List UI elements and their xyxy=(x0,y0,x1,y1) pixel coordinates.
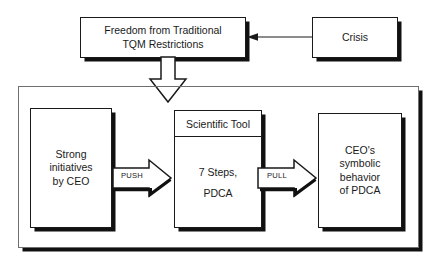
freedom-from-tqm-box[interactable]: Freedom from Traditional TQM Restriction… xyxy=(80,17,246,58)
scientific-tool-box[interactable]: Scientific Tool 7 Steps, PDCA xyxy=(174,110,262,228)
scientific-tool-header-label: Scientific Tool xyxy=(186,118,250,130)
freedom-from-tqm-label: Freedom from Traditional TQM Restriction… xyxy=(104,24,221,50)
pull-arrow: PULL xyxy=(258,158,318,198)
arrow-left-icon xyxy=(246,28,314,46)
ceo-symbolic-behavior-label: CEO's symbolic behavior of PDCA xyxy=(340,144,381,197)
push-arrow: PUSH xyxy=(113,158,173,198)
crisis-box[interactable]: Crisis xyxy=(312,17,398,58)
strong-initiatives-label: Strong initiatives by CEO xyxy=(49,148,92,188)
diagram-canvas: Freedom from Traditional TQM Restriction… xyxy=(0,0,437,264)
ceo-symbolic-behavior-box[interactable]: CEO's symbolic behavior of PDCA xyxy=(318,113,402,228)
scientific-tool-body: 7 Steps, PDCA xyxy=(175,137,261,228)
pull-arrow-label: PULL xyxy=(260,171,294,180)
scientific-tool-header: Scientific Tool xyxy=(175,111,261,137)
strong-initiatives-box[interactable]: Strong initiatives by CEO xyxy=(30,108,112,228)
scientific-tool-body-label: 7 Steps, PDCA xyxy=(199,162,238,204)
push-arrow-label: PUSH xyxy=(115,171,149,180)
crisis-label: Crisis xyxy=(342,31,368,44)
